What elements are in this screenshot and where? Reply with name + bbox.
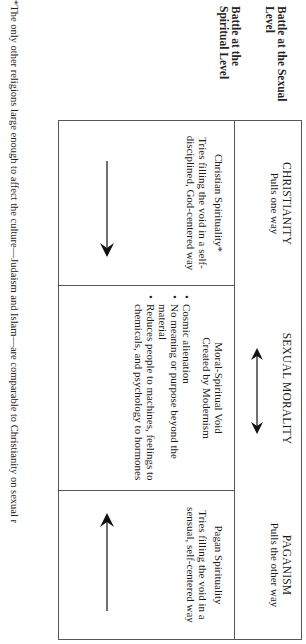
cell-pagan-spirituality: Pagan Spirituality Tries filling the voi… xyxy=(59,491,235,639)
row-label-sexual-level: Battle at the Sexual Level xyxy=(264,6,288,106)
void-subtitle: Created by Modernism xyxy=(201,294,213,482)
pagan-spirituality-title: Pagan Spirituality xyxy=(213,491,225,639)
arrow-right-icon xyxy=(97,121,117,286)
comparison-table: CHRISTIANITY Pulls one way SEXUAL MORALI… xyxy=(58,120,302,640)
void-bullet-item: Reduces people to machines, feelings to … xyxy=(133,304,157,482)
header-christianity-subtitle: Pulls one way xyxy=(269,173,281,235)
footnote: *The only other religions large enough t… xyxy=(8,0,20,644)
arrow-left-icon xyxy=(97,491,117,639)
header-paganism-title: PAGANISM xyxy=(281,535,293,596)
rotated-page: Battle at the Sexual Level Battle at the… xyxy=(0,0,306,644)
header-christianity: CHRISTIANITY Pulls one way xyxy=(269,121,293,286)
header-christianity-title: CHRISTIANITY xyxy=(281,162,293,245)
row-label-spiritual-level: Battle at the Spiritual Level xyxy=(218,6,242,106)
header-row: CHRISTIANITY Pulls one way SEXUAL MORALI… xyxy=(234,121,301,639)
cell-moral-spiritual-void: Moral-Spiritual Void Created by Modernis… xyxy=(59,286,235,491)
header-paganism-subtitle: Pulls the other way xyxy=(269,523,281,608)
void-bullet-item: No meaning or purpose beyond the materia… xyxy=(157,304,181,482)
void-bullet-item: Cosmic alienation xyxy=(181,304,193,482)
double-headed-arrow-icon xyxy=(245,346,269,436)
cell-christian-spirituality: Christian Spirituality* Tries filling th… xyxy=(59,121,235,286)
christian-spirituality-title: Christian Spirituality* xyxy=(213,121,225,285)
pagan-spirituality-description: Tries filling the void in a sensual, sel… xyxy=(185,491,209,639)
void-bullet-list: Cosmic alienation No meaning or purpose … xyxy=(133,294,193,482)
body-row: Christian Spirituality* Tries filling th… xyxy=(59,121,235,639)
header-paganism: PAGANISM Pulls the other way xyxy=(269,491,293,639)
header-sexual-morality-title: SEXUAL MORALITY xyxy=(281,333,293,445)
christian-spirituality-description: Tries filling the void in a self-discipl… xyxy=(185,121,209,285)
header-sexual-morality: SEXUAL MORALITY xyxy=(281,286,293,491)
void-title: Moral-Spiritual Void xyxy=(213,294,225,482)
